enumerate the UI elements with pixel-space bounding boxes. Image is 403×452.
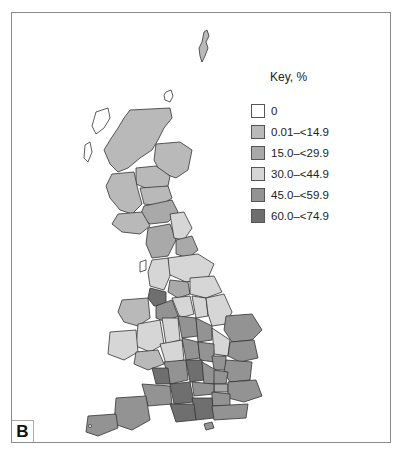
legend-item-3: 30.0–<44.9 [251,164,329,184]
region-humberside [190,276,222,298]
region-northumberland [170,212,192,240]
region-western-isles [92,108,110,134]
region-essex [224,360,252,382]
region-western-isles-south [84,142,92,162]
region-suffolk [228,340,258,362]
legend-item-1: 0.01–<14.9 [251,122,329,142]
great-britain-map [0,0,403,452]
region-sussex [212,404,248,420]
region-cumbria [146,224,176,258]
region-glamorgan [134,350,164,370]
region-isle-of-man [140,260,146,272]
legend-swatch [251,188,265,202]
legend-swatch [251,104,265,118]
region-berkshire [192,382,214,396]
legend-label: 0.01–<14.9 [271,126,329,138]
legend-label: 30.0–<44.9 [271,168,329,180]
region-herts [214,370,228,384]
region-dorset [170,404,196,422]
region-surrey [212,392,230,406]
region-northants [198,342,214,362]
region-dumfries [112,212,150,234]
region-powys [136,320,164,352]
region-norfolk [224,314,262,342]
region-shropshire [162,318,180,344]
region-oxfordshire [186,360,204,382]
legend-item-2: 15.0–<29.9 [251,143,329,163]
region-kent [228,380,262,402]
region-notts [192,296,208,318]
legend-label: 0 [271,105,277,117]
legend-swatch [251,209,265,223]
map-legend: 0 0.01–<14.9 15.0–<29.9 30.0–<44.9 45.0–… [251,101,329,227]
region-leicestershire [196,318,212,342]
region-london [214,384,228,392]
legend-label: 60.0–<74.9 [271,210,329,222]
panel-label: B [12,420,34,442]
region-shetland [199,30,209,62]
legend-label: 15.0–<29.9 [271,147,329,159]
legend-label: 45.0–<59.9 [271,189,329,201]
region-dyfed [108,330,138,360]
legend-swatch [251,167,265,181]
region-west-yorkshire [168,280,190,298]
region-devon [114,396,150,430]
legend-swatch [251,146,265,160]
legend-item-4: 45.0–<59.9 [251,185,329,205]
region-bedfordshire [212,356,226,370]
legend-swatch [251,125,265,139]
region-lancashire [148,258,170,290]
region-scilly [89,425,92,428]
legend-item-0: 0 [251,101,329,121]
region-warwickshire [182,338,200,360]
key-title: Key, % [270,70,307,84]
region-gwynedd [118,298,150,326]
region-staffordshire [178,316,198,338]
region-isle-of-wight [204,422,214,430]
region-wiltshire [170,382,194,404]
region-orkney [164,90,173,102]
region-avon [152,368,170,384]
legend-item-5: 60.0–<74.9 [251,206,329,226]
